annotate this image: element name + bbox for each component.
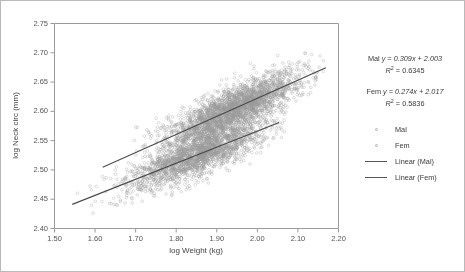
male-equation-prefix: Mal: [368, 54, 380, 63]
female-equation: y = 0.274x + 2.017: [383, 87, 443, 96]
male-equation: y = 0.309x + 2.003: [382, 54, 442, 63]
legend-line-icon: [363, 161, 389, 162]
chart-legend: Mal y = 0.309x + 2.003 R2 = 0.6345 Fem y…: [349, 53, 461, 185]
legend-label-linear-mal: Linear (Mal): [395, 157, 434, 166]
female-r2-value: = 0.5836: [396, 100, 425, 109]
legend-label-linear-fem: Linear (Fem): [395, 173, 437, 182]
legend-label-mal: Mal: [395, 125, 407, 134]
legend-item-fem[interactable]: Fem: [349, 137, 461, 153]
male-r2-exponent: 2: [391, 65, 394, 71]
female-r2-exponent: 2: [391, 98, 394, 104]
chart-figure: Mal y = 0.309x + 2.003 R2 = 0.6345 Fem y…: [0, 0, 465, 272]
male-r2-value: = 0.6345: [396, 67, 425, 76]
legend-line-icon: [363, 177, 389, 178]
legend-marker-icon: [363, 128, 389, 131]
male-annotation: Mal y = 0.309x + 2.003 R2 = 0.6345: [349, 53, 461, 77]
legend-item-mal[interactable]: Mal: [349, 121, 461, 137]
legend-label-fem: Fem: [395, 141, 410, 150]
legend-item-linear-fem[interactable]: Linear (Fem): [349, 169, 461, 185]
female-annotation: Fem y = 0.274x + 2.017 R2 = 0.5836: [349, 86, 461, 110]
legend-entries: Mal Fem Linear (Mal) Linear (Fem): [349, 121, 461, 185]
legend-item-linear-mal[interactable]: Linear (Mal): [349, 153, 461, 169]
female-equation-prefix: Fem: [366, 87, 381, 96]
legend-marker-icon: [363, 144, 389, 147]
